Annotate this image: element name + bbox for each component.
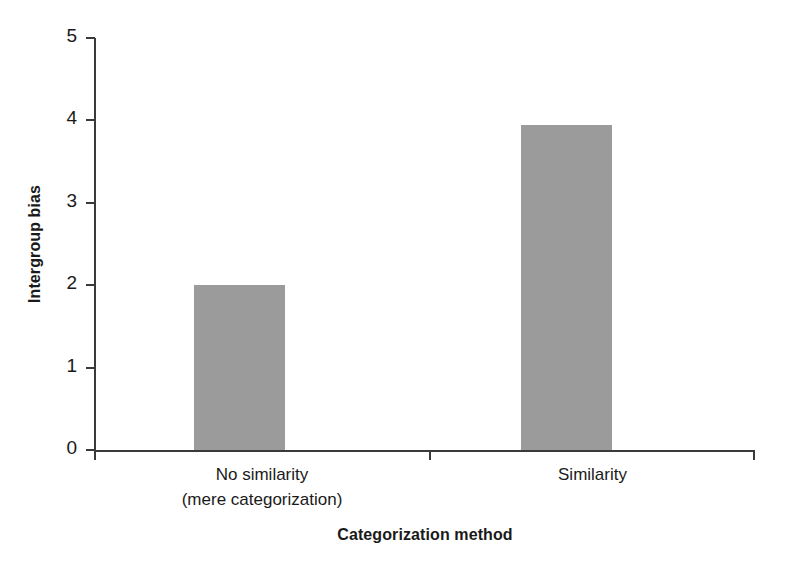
y-tick-2: 2	[86, 284, 95, 286]
y-axis-title: Intergroup bias	[20, 38, 50, 450]
y-tick-1: 1	[86, 367, 95, 369]
category-label-similarity: Similarity	[430, 462, 755, 487]
y-tick-label-1: 1	[66, 355, 77, 377]
y-tick-label-3: 3	[66, 190, 77, 212]
y-tick-label-5: 5	[66, 25, 77, 47]
category-label-line-2: (mere categorization)	[94, 487, 430, 512]
category-label-no-similarity: No similarity (mere categorization)	[94, 462, 430, 512]
y-tick-5: 5	[86, 37, 95, 39]
plot-area: 5 4 3 2 1 0	[95, 38, 755, 450]
y-tick-4: 4	[86, 119, 95, 121]
y-tick-label-0: 0	[66, 437, 77, 459]
y-tick-label-4: 4	[66, 107, 77, 129]
y-tick-3: 3	[86, 202, 95, 204]
x-tick-start	[94, 450, 96, 460]
category-label-line-1: No similarity	[94, 462, 430, 487]
y-axis-line	[94, 38, 96, 451]
y-tick-label-2: 2	[66, 272, 77, 294]
x-axis-title: Categorization method	[95, 526, 755, 544]
bar-similarity	[521, 125, 612, 450]
bar-chart-figure: Intergroup bias 5 4 3 2 1 0	[0, 0, 788, 574]
bar-no-similarity	[194, 285, 285, 450]
x-tick-middle	[429, 450, 431, 460]
category-label-line-1: Similarity	[430, 462, 755, 487]
x-axis-line	[94, 450, 755, 452]
x-tick-end	[753, 450, 755, 460]
